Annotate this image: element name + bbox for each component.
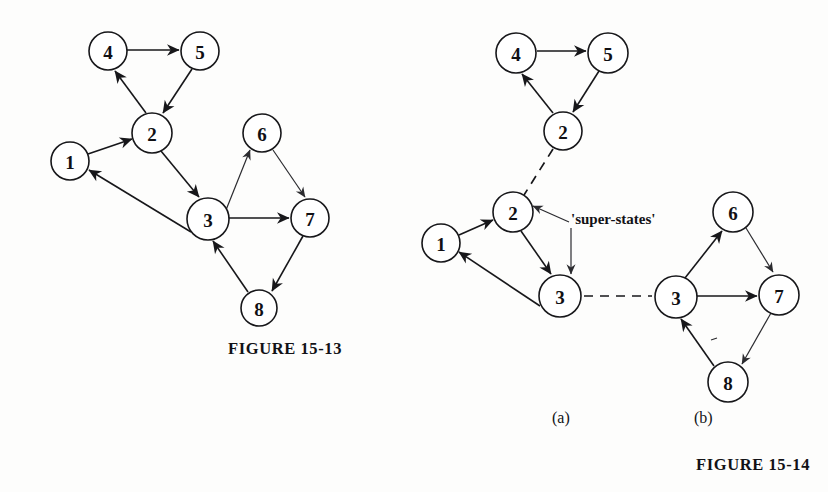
node-1[interactable]: 1	[51, 142, 89, 180]
node-b-6-label: 6	[728, 203, 738, 224]
node-a-2[interactable]: 2	[493, 192, 533, 232]
node-b-7[interactable]: 7	[759, 275, 799, 315]
figure-page: 1 2 3 4 5	[0, 0, 828, 492]
node-a-1[interactable]: 1	[422, 224, 460, 262]
node-4[interactable]: 4	[89, 32, 127, 70]
node-5[interactable]: 5	[181, 32, 219, 70]
node-2-label: 2	[147, 124, 157, 145]
node-b-8[interactable]: 8	[708, 362, 748, 402]
edge-b-3-to-6	[685, 231, 722, 278]
node-a-3[interactable]: 3	[539, 275, 581, 317]
node-3[interactable]: 3	[187, 198, 229, 240]
node-1-label: 1	[65, 152, 75, 173]
edge-a-3-to-1	[459, 252, 540, 306]
edge-2-to-3	[161, 151, 199, 197]
node-top-4[interactable]: 4	[496, 33, 536, 73]
edge-1-to-2	[88, 139, 132, 154]
panel-a-label: (a)	[552, 409, 570, 427]
panel-b-label: (b)	[694, 409, 713, 427]
node-5-label: 5	[195, 42, 205, 63]
node-8-label: 8	[254, 299, 264, 320]
figure-15-14-caption: FIGURE 15-14	[696, 455, 810, 475]
figure-15-13-caption: FIGURE 15-13	[228, 339, 342, 359]
node-b-7-label: 7	[774, 286, 784, 307]
node-a-3-label: 3	[555, 287, 565, 308]
edge-7-to-8	[272, 236, 303, 291]
figure-15-13-graph: 1 2 3 4 5	[51, 32, 329, 326]
edge-a-2-to-3	[521, 231, 551, 274]
node-2[interactable]: 2	[132, 113, 172, 153]
edge-8-to-3	[213, 241, 248, 292]
node-top-5-label: 5	[603, 44, 613, 65]
node-top-5[interactable]: 5	[588, 33, 628, 73]
edges-15-13	[88, 50, 305, 292]
edge-b-8-to-3	[681, 319, 714, 366]
edge-2-to-4	[115, 71, 146, 113]
node-b-6[interactable]: 6	[713, 192, 753, 232]
node-a-2-label: 2	[508, 203, 518, 224]
edge-6-to-7	[273, 150, 305, 197]
edge-a-1-to-2	[459, 220, 493, 235]
edge-3-to-1	[89, 170, 191, 232]
edge-top-2-to-4	[522, 74, 553, 113]
node-b-8-label: 8	[723, 373, 733, 394]
nodes-15-13: 1 2 3 4 5	[51, 32, 329, 326]
node-6-label: 6	[257, 124, 267, 145]
node-top-2-label: 2	[558, 122, 568, 143]
node-7[interactable]: 7	[291, 199, 329, 237]
node-3-label: 3	[203, 210, 213, 231]
node-4-label: 4	[103, 42, 113, 63]
dashed-link-2-to-2	[524, 149, 553, 195]
node-top-2[interactable]: 2	[544, 112, 582, 150]
node-b-3-label: 3	[671, 288, 681, 309]
node-b-3[interactable]: 3	[655, 276, 697, 318]
node-7-label: 7	[305, 209, 315, 230]
edge-top-5-to-2	[573, 71, 599, 112]
superstates-annotation: 'super-states'	[571, 211, 655, 228]
edge-b-6-to-7	[746, 228, 773, 272]
node-a-1-label: 1	[436, 234, 446, 255]
node-top-4-label: 4	[511, 44, 521, 65]
edge-b-7-to-8	[742, 313, 771, 364]
node-8[interactable]: 8	[241, 290, 277, 326]
leader-superstates-to-a2	[533, 206, 569, 222]
stray-ink-mark	[711, 338, 717, 340]
edge-5-to-2	[163, 69, 192, 113]
node-6[interactable]: 6	[243, 114, 281, 152]
